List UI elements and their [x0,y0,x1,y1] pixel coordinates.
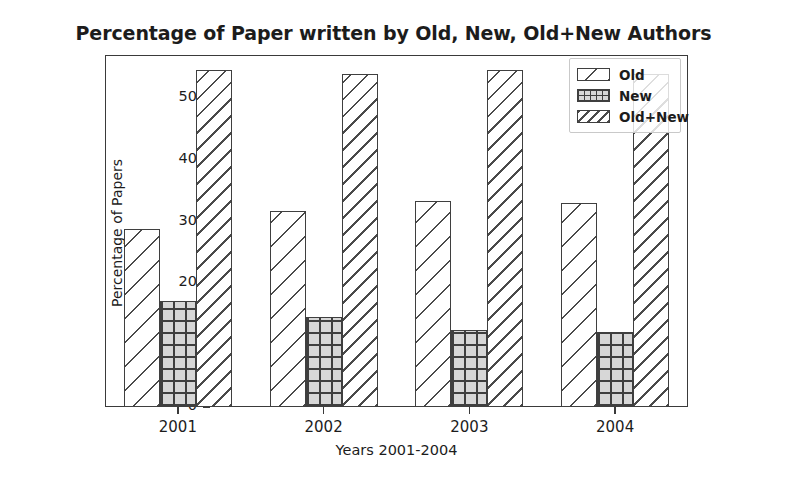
bar-2001-new [160,301,196,407]
x-tick-mark [469,407,471,414]
y-tick-label: 40 [157,150,197,166]
bar-2002-old [270,211,306,407]
legend-label: Old+New [619,109,689,125]
bar-2004-old [561,203,597,407]
bar-2003-old-plus-new [487,70,523,407]
bar-2004-new [597,332,633,407]
chart-title: Percentage of Paper written by Old, New,… [0,22,787,44]
x-tick-mark [614,407,616,414]
x-axis-label: Years 2001-2004 [105,442,688,458]
bar-2002-new [306,317,342,407]
bar-2003-new [451,330,487,407]
legend-entry-new: New [577,86,673,105]
x-tick-label: 2002 [279,418,369,436]
bar-2001-old [124,229,160,407]
bar-2003-old [415,201,451,407]
y-tick-label: 30 [157,212,197,228]
legend-swatch-old-plus-new [577,110,610,123]
x-tick-label: 2004 [570,418,660,436]
legend-entry-old: Old [577,65,673,84]
legend-swatch-old [577,68,610,81]
y-tick-label: 20 [157,273,197,289]
legend-label: New [619,88,652,104]
x-tick-mark [177,407,179,414]
bar-chart-figure: Percentage of Paper written by Old, New,… [0,0,787,487]
x-tick-mark [323,407,325,414]
y-tick-label: 50 [157,88,197,104]
x-tick-label: 2003 [424,418,514,436]
legend-label: Old [619,67,645,83]
bar-2001-old-plus-new [196,70,232,407]
y-axis-label: Percentage of Papers [109,53,125,413]
legend-swatch-new [577,89,610,102]
legend-entry-old-plus-new: Old+New [577,107,673,126]
chart-legend: OldNewOld+New [569,58,681,133]
x-tick-label: 2001 [133,418,223,436]
bar-2002-old-plus-new [342,74,378,407]
